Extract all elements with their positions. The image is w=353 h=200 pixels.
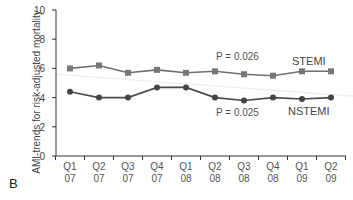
x-tick-label: 09 — [296, 173, 308, 184]
x-tick-label: 07 — [151, 173, 163, 184]
square-marker-icon — [154, 67, 160, 73]
x-tick-label: Q1 — [179, 161, 193, 172]
x-tick-label: Q3 — [121, 161, 135, 172]
circle-marker-icon — [270, 95, 276, 101]
x-tick-label: Q1 — [295, 161, 309, 172]
circle-marker-icon — [96, 95, 102, 101]
x-tick-label: 08 — [267, 173, 279, 184]
stemi-line — [70, 65, 331, 75]
circle-marker-icon — [212, 95, 218, 101]
background-line — [56, 74, 353, 96]
x-tick-label: 07 — [64, 173, 76, 184]
circle-marker-icon — [183, 84, 189, 90]
nstemi-line — [70, 87, 331, 100]
circle-marker-icon — [67, 89, 73, 95]
x-tick-label: Q4 — [266, 161, 280, 172]
x-tick-label: 08 — [180, 173, 192, 184]
x-tick-label: Q2 — [208, 161, 222, 172]
square-marker-icon — [299, 68, 305, 74]
circle-marker-icon — [154, 84, 160, 90]
circle-marker-icon — [328, 95, 334, 101]
square-marker-icon — [241, 71, 247, 77]
x-tick-label: 08 — [209, 173, 221, 184]
y-axis-label: AMI-trends for risk-adjusted mortality — [31, 7, 43, 177]
labels-layer: 0246810Q107Q207Q307Q407Q108Q208Q308Q408Q… — [34, 5, 338, 184]
square-marker-icon — [270, 73, 276, 79]
series-layer — [67, 62, 334, 103]
stemi-p-value: P = 0.026 — [216, 51, 259, 62]
line-chart: 0246810Q107Q207Q307Q407Q108Q208Q308Q408Q… — [0, 0, 353, 200]
square-marker-icon — [183, 70, 189, 76]
x-tick-label: Q2 — [324, 161, 338, 172]
square-marker-icon — [96, 62, 102, 68]
square-marker-icon — [212, 68, 218, 74]
circle-marker-icon — [241, 98, 247, 104]
x-tick-label: 08 — [238, 173, 250, 184]
panel-label: B — [9, 176, 18, 191]
x-tick-label: Q4 — [150, 161, 164, 172]
stemi-legend-label: STEMI — [292, 55, 326, 67]
x-tick-label: 09 — [325, 173, 337, 184]
square-marker-icon — [67, 65, 73, 71]
x-tick-label: 07 — [122, 173, 134, 184]
circle-marker-icon — [299, 96, 305, 102]
x-tick-label: 07 — [93, 173, 105, 184]
axes — [52, 10, 353, 160]
x-tick-label: Q2 — [92, 161, 106, 172]
square-marker-icon — [328, 68, 334, 74]
circle-marker-icon — [125, 95, 131, 101]
x-tick-label: Q1 — [63, 161, 77, 172]
square-marker-icon — [125, 70, 131, 76]
nstemi-legend-label: NSTEMI — [288, 105, 330, 117]
x-tick-label: Q3 — [237, 161, 251, 172]
nstemi-p-value: P = 0.025 — [216, 107, 259, 118]
